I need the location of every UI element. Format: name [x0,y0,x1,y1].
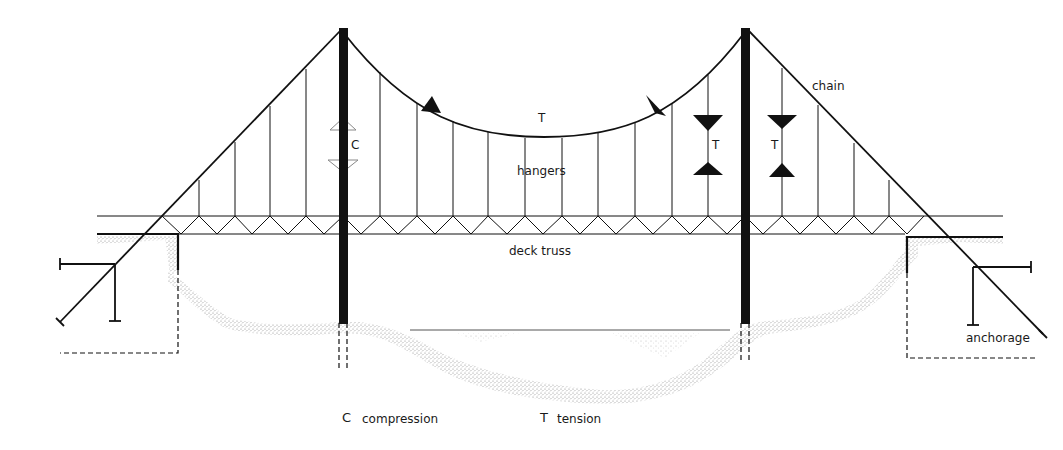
suspension-bridge-diagram [0,0,1063,450]
legend-symbol-compression: C [342,411,351,424]
chain-cable [60,30,1043,334]
legend-text-tension: tension [557,413,601,425]
tower-compression-label: C [351,139,359,151]
anchorage-label: anchorage [966,332,1030,344]
hangers [199,68,889,216]
cable-tension-label: T [538,112,545,124]
chain-label: chain [812,80,845,92]
deck-truss [97,216,1003,234]
deck-truss-label: deck truss [509,245,571,257]
legend-text-compression: compression [362,413,438,425]
hangers-label: hangers [517,165,566,177]
hanger-tension-label-left: T [712,139,719,151]
tower-right [741,28,750,324]
ground-profile [97,236,1003,404]
hanger-tension-label-right: T [771,139,778,151]
legend-symbol-tension: T [540,411,548,424]
